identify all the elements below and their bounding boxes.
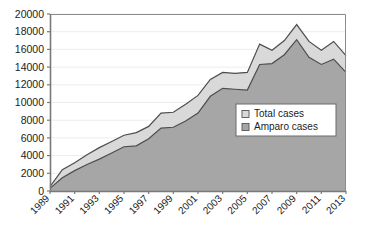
- legend-swatch-total-cases: [242, 111, 249, 118]
- legend-label-amparo-cases: Amparo cases: [254, 121, 318, 132]
- x-tick-label: 1995: [102, 192, 126, 216]
- y-tick-label: 12000: [15, 78, 44, 90]
- x-tick-label: 1991: [53, 192, 77, 216]
- y-axis-ticks: 0200040006000800010000120001400016000180…: [15, 8, 50, 197]
- y-tick-label: 16000: [15, 43, 44, 55]
- y-tick-label: 14000: [15, 61, 44, 73]
- x-tick-label: 1993: [77, 192, 101, 216]
- area-chart: 0200040006000800010000120001400016000180…: [0, 0, 365, 236]
- y-tick-label: 6000: [21, 132, 45, 144]
- x-tick-label: 2013: [324, 192, 348, 216]
- x-tick-label: 1989: [28, 192, 52, 216]
- x-tick-label: 1999: [151, 192, 175, 216]
- y-tick-label: 8000: [21, 114, 45, 126]
- x-tick-label: 2005: [225, 192, 249, 216]
- x-tick-label: 2007: [250, 192, 274, 216]
- y-tick-label: 4000: [21, 149, 45, 161]
- x-tick-label: 2009: [275, 192, 299, 216]
- legend-swatch-amparo-cases: [242, 124, 249, 131]
- legend-label-total-cases: Total cases: [254, 108, 304, 119]
- x-tick-label: 1997: [127, 192, 151, 216]
- x-axis-ticks: 1989199119931995199719992001200320052007…: [28, 191, 348, 216]
- y-tick-label: 20000: [15, 8, 44, 20]
- chart-legend: Total cases Amparo cases: [236, 104, 336, 136]
- y-tick-label: 18000: [15, 25, 44, 37]
- x-tick-label: 2011: [300, 192, 323, 215]
- y-tick-label: 2000: [21, 167, 45, 179]
- y-tick-label: 10000: [15, 96, 44, 108]
- x-tick-label: 2003: [201, 192, 225, 216]
- x-tick-label: 2001: [176, 192, 200, 216]
- chart-canvas: 0200040006000800010000120001400016000180…: [0, 0, 365, 236]
